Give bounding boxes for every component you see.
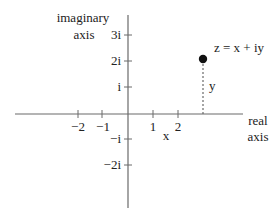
real-tick-label: −2	[71, 119, 85, 134]
imaginary-axis-title: axis	[74, 27, 95, 42]
point-z-label: z = x + iy	[214, 40, 265, 55]
real-axis-title: axis	[248, 129, 269, 144]
x-component-label: x	[163, 128, 170, 143]
imaginary-tick-label: 2i	[111, 53, 122, 68]
real-tick-label: 1	[150, 119, 157, 134]
imaginary-axis-title: imaginary	[57, 10, 110, 25]
y-component-label: y	[209, 78, 216, 93]
complex-plane-diagram: −2 −1 1 2 3i 2i i −i −2i imaginary axis …	[0, 0, 274, 221]
real-axis-title: real	[248, 113, 268, 128]
imaginary-tick-label: i	[117, 79, 121, 94]
imaginary-tick-label: −i	[110, 131, 121, 146]
point-z	[199, 55, 207, 63]
imaginary-tick-label: −2i	[104, 157, 122, 172]
imaginary-tick-label: 3i	[111, 27, 122, 42]
real-tick-label: 2	[175, 119, 182, 134]
real-tick-label: −1	[96, 119, 110, 134]
